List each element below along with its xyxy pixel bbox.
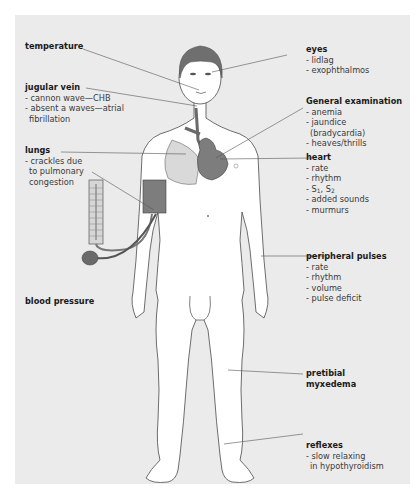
label-item: - exophthalmos (306, 65, 369, 76)
label-item: - lidlag (306, 55, 369, 66)
label-heart: heart - rate - rhythm - S1, S2 - added s… (306, 152, 369, 216)
label-peripheral-pulses: peripheral pulses - rate - rhythm - volu… (306, 251, 387, 304)
label-item: - rate (306, 262, 387, 273)
s-text: , S (321, 184, 331, 194)
label-title: temperature (25, 41, 83, 52)
label-reflexes: reflexes - slow relaxing in hypothyroidi… (306, 440, 384, 472)
label-title: jugular vein (25, 82, 124, 93)
label-item: - crackles due (25, 156, 84, 167)
label-item: - jaundice (306, 117, 402, 128)
label-title: peripheral pulses (306, 251, 387, 262)
label-item: - rhythm (306, 272, 387, 283)
label-item: (bradycardia) (306, 128, 402, 139)
label-title: General examination (306, 96, 402, 107)
label-item-heart-sounds: - S1, S2 (306, 184, 369, 195)
label-blood-pressure: blood pressure (25, 296, 94, 307)
label-item: to pulmonary (25, 166, 84, 177)
label-item: - heaves/thrills (306, 138, 402, 149)
label-item: - pulse deficit (306, 293, 387, 304)
head (179, 46, 222, 104)
label-item: - slow relaxing (306, 451, 384, 462)
label-general-examination: General examination - anemia - jaundice … (306, 96, 402, 149)
label-item: fibrillation (25, 114, 124, 125)
label-item: - murmurs (306, 205, 369, 216)
label-item: - volume (306, 283, 387, 294)
label-item: - cannon wave—CHB (25, 93, 124, 104)
s2-subscript: 2 (331, 187, 335, 194)
label-item: - rate (306, 163, 369, 174)
label-pretibial-myxedema: pretibial myxedema (306, 368, 356, 389)
label-item: in hypothyroidism (306, 461, 384, 472)
label-title: pretibial (306, 368, 356, 379)
label-title: heart (306, 152, 369, 163)
label-item: - absent a waves—atrial (25, 103, 124, 114)
label-temperature: temperature (25, 41, 83, 52)
label-title: blood pressure (25, 296, 94, 307)
label-title: lungs (25, 145, 84, 156)
label-item: - rhythm (306, 173, 369, 184)
label-item: congestion (25, 177, 84, 188)
label-title-line2: myxedema (306, 379, 356, 390)
bp-bulb (82, 251, 98, 265)
label-title: reflexes (306, 440, 384, 451)
label-item: - added sounds (306, 194, 369, 205)
label-jugular-vein: jugular vein - cannon wave—CHB - absent … (25, 82, 124, 124)
label-eyes: eyes - lidlag - exophthalmos (306, 44, 369, 76)
label-lungs: lungs - crackles due to pulmonary conges… (25, 145, 84, 187)
bp-cuff (143, 180, 166, 213)
label-item: - anemia (306, 107, 402, 118)
label-title: eyes (306, 44, 369, 55)
s-text: - S (306, 184, 317, 194)
